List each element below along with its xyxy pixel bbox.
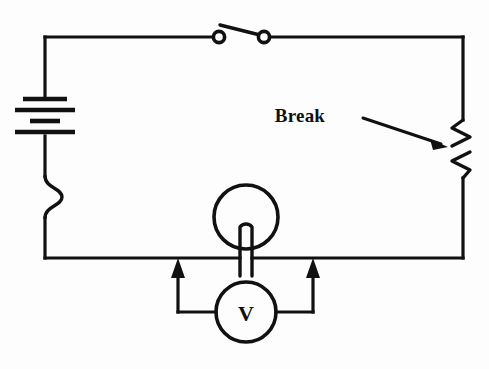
broken-resistor-symbol: [452, 120, 470, 178]
voltmeter-probe-right: [276, 258, 320, 312]
battery-symbol: [15, 99, 75, 132]
switch-terminal-right: [258, 31, 269, 42]
probe-left-arrowhead: [171, 258, 185, 278]
circuit-diagram-canvas: V Break: [0, 0, 489, 369]
wire-kink-symbol: [45, 176, 62, 218]
resistor-zigzag-upper: [452, 120, 470, 146]
probe-right-arrowhead: [306, 258, 320, 278]
lamp-envelope: [214, 185, 278, 249]
switch-symbol[interactable]: [213, 25, 269, 43]
break-arrow-head: [430, 139, 448, 150]
circuit-schematic: V Break: [0, 0, 489, 369]
break-arrow-shaft: [363, 118, 441, 144]
resistor-zigzag-lower: [452, 152, 470, 178]
voltmeter-probe-left: [171, 258, 216, 312]
lamp-symbol: [214, 185, 278, 276]
voltmeter-label: V: [238, 301, 254, 326]
break-pointer-arrow: [363, 118, 448, 150]
voltmeter-symbol: V: [216, 282, 276, 342]
break-label: Break: [275, 105, 325, 126]
switch-terminal-left: [213, 31, 224, 42]
